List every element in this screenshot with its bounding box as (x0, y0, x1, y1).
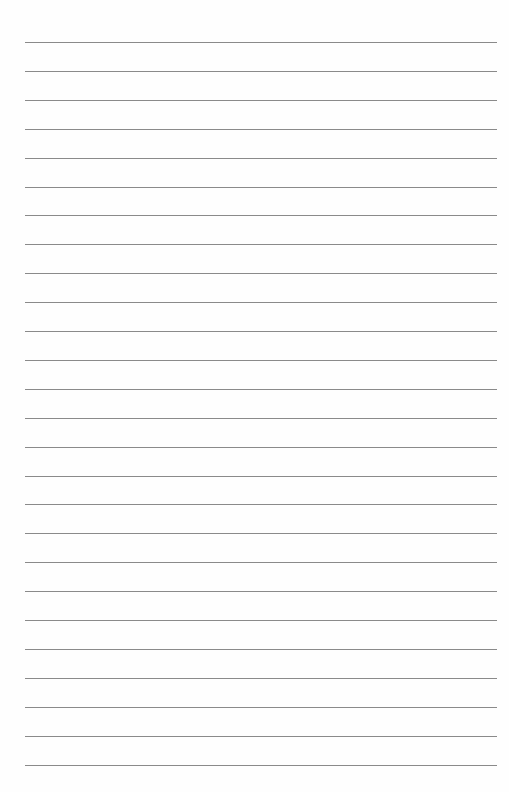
ruled-line (25, 360, 497, 361)
ruled-line (25, 42, 497, 43)
ruled-line (25, 215, 497, 216)
ruled-line (25, 418, 497, 419)
ruled-line (25, 244, 497, 245)
ruled-line (25, 533, 497, 534)
ruled-line (25, 678, 497, 679)
ruled-line (25, 765, 497, 766)
ruled-line (25, 389, 497, 390)
ruled-line (25, 649, 497, 650)
ruled-line (25, 158, 497, 159)
ruled-line (25, 707, 497, 708)
ruled-line (25, 504, 497, 505)
ruled-line (25, 187, 497, 188)
ruled-line (25, 331, 497, 332)
ruled-line (25, 302, 497, 303)
ruled-line (25, 736, 497, 737)
ruled-line (25, 476, 497, 477)
ruled-line (25, 591, 497, 592)
ruled-line (25, 620, 497, 621)
ruled-line (25, 562, 497, 563)
ruled-line (25, 273, 497, 274)
ruled-line (25, 447, 497, 448)
lined-paper-sheet (0, 0, 509, 792)
ruled-line (25, 129, 497, 130)
ruled-line (25, 100, 497, 101)
ruled-line (25, 71, 497, 72)
